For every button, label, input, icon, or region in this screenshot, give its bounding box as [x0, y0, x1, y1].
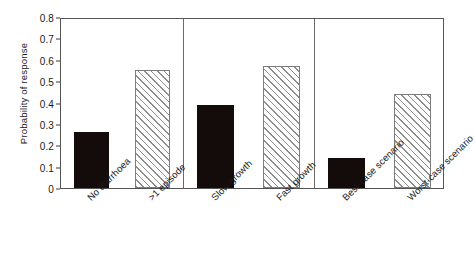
x-tick-label: >1 episode: [146, 161, 188, 203]
x-tick-label: Best-case scenario: [340, 137, 406, 203]
x-tick-label: Worst-case scenario: [405, 133, 475, 203]
x-tick-label: Fast growth: [274, 159, 318, 203]
x-tick-label: Slow growth: [209, 158, 254, 203]
x-tick-label: No diarrhoea: [85, 155, 132, 202]
